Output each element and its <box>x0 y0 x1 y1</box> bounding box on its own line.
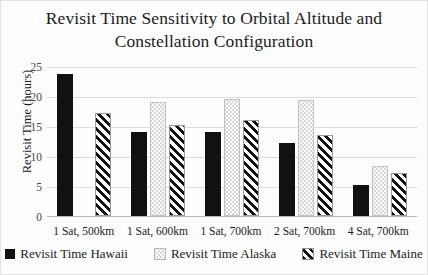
bar-hawaii-5[interactable] <box>353 185 369 216</box>
x-label-5: 4 Sat, 700km <box>341 225 415 237</box>
chart-title-line-2: Constellation Configuration <box>29 30 399 53</box>
legend-label-hawaii: Revisit Time Hawaii <box>20 246 128 262</box>
bar-group-1-sat-700km <box>195 67 269 216</box>
bar-hawaii-4[interactable] <box>279 143 295 216</box>
legend-swatch-maine-icon <box>302 248 314 260</box>
bar-hawaii-3[interactable] <box>205 132 221 216</box>
y-tick-15: 15 <box>31 121 43 133</box>
bar-group-1-sat-600km <box>121 67 195 216</box>
chart-container: Revisit Time Sensitivity to Orbital Alti… <box>0 0 428 275</box>
bar-alaska-3[interactable] <box>224 99 240 216</box>
chart-legend: Revisit Time Hawaii Revisit Time Alaska … <box>1 246 427 262</box>
legend-label-maine: Revisit Time Maine <box>319 246 422 262</box>
legend-label-alaska: Revisit Time Alaska <box>171 246 276 262</box>
bar-maine-4[interactable] <box>317 135 333 216</box>
bar-maine-5[interactable] <box>391 173 407 216</box>
bar-maine-2[interactable] <box>169 125 185 216</box>
legend-item-alaska[interactable]: Revisit Time Alaska <box>154 246 276 262</box>
legend-swatch-alaska-icon <box>154 248 166 260</box>
y-tick-20: 20 <box>31 91 43 103</box>
x-label-3: 1 Sat, 700km <box>194 225 268 237</box>
chart-title: Revisit Time Sensitivity to Orbital Alti… <box>1 7 427 53</box>
legend-swatch-hawaii-icon <box>5 249 15 259</box>
plot-area <box>47 67 417 217</box>
x-label-2: 1 Sat, 600km <box>121 225 195 237</box>
y-axis-ticks: 25 20 15 10 5 0 <box>19 67 45 217</box>
legend-item-maine[interactable]: Revisit Time Maine <box>302 246 422 262</box>
chart-title-line-1: Revisit Time Sensitivity to Orbital Alti… <box>29 7 399 30</box>
x-label-4: 2 Sat, 700km <box>268 225 342 237</box>
x-label-1: 1 Sat, 500km <box>47 225 121 237</box>
bar-maine-1[interactable] <box>95 113 111 216</box>
bar-alaska-2[interactable] <box>150 102 166 216</box>
x-axis-labels: 1 Sat, 500km 1 Sat, 600km 1 Sat, 700km 2… <box>47 225 415 237</box>
bar-maine-3[interactable] <box>243 120 259 216</box>
bar-alaska-4[interactable] <box>298 100 314 216</box>
plot-wrapper: Revisit Time (hours) 25 20 15 10 5 0 <box>1 67 428 222</box>
y-tick-10: 10 <box>31 151 43 163</box>
bar-groups <box>47 67 417 216</box>
y-tick-25: 25 <box>31 61 43 73</box>
y-tick-5: 5 <box>36 181 42 193</box>
bar-group-4-sat-700km <box>343 67 417 216</box>
legend-item-hawaii[interactable]: Revisit Time Hawaii <box>5 246 128 262</box>
bar-group-1-sat-500km <box>47 67 121 216</box>
bar-hawaii-2[interactable] <box>131 132 147 216</box>
bar-group-2-sat-700km <box>269 67 343 216</box>
y-tick-0: 0 <box>36 211 42 223</box>
bar-hawaii-1[interactable] <box>57 74 73 216</box>
bar-alaska-5[interactable] <box>372 166 388 216</box>
